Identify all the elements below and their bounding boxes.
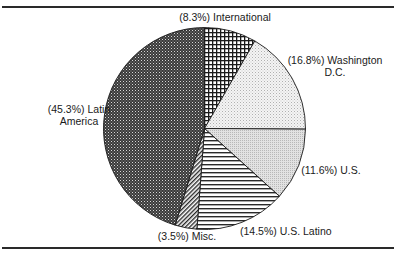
label-misc-text: (3.5%) Misc. xyxy=(158,230,216,242)
label-latin-america-line1: (45.3%) Latin xyxy=(36,103,122,115)
label-misc: (3.5%) Misc. xyxy=(157,230,217,242)
label-latin-america-line2: America xyxy=(36,115,122,127)
label-latin-america: (45.3%) Latin America xyxy=(36,103,122,127)
label-us-text: (11.6%) U.S. xyxy=(301,164,360,176)
label-international: (8.3%) International xyxy=(170,11,280,23)
label-us: (11.6%) U.S. xyxy=(296,164,366,176)
label-us-latino-text: (14.5%) U.S. Latino xyxy=(240,225,332,237)
label-washington-dc-line2: D.C. xyxy=(285,66,385,78)
label-international-text: (8.3%) International xyxy=(179,11,271,23)
label-washington-dc-line1: (16.8%) Washington xyxy=(285,54,385,66)
pie-chart xyxy=(0,0,396,255)
label-us-latino: (14.5%) U.S. Latino xyxy=(240,225,330,237)
label-washington-dc: (16.8%) Washington D.C. xyxy=(285,54,385,78)
